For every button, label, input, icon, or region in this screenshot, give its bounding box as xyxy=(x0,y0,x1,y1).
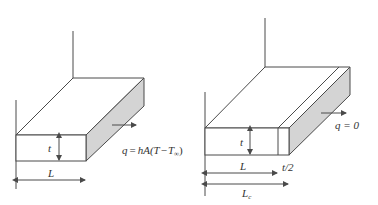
right-fin: t L t/2 Lc q = 0 xyxy=(205,18,359,201)
length-label: L xyxy=(47,167,54,179)
convection-equation: q=hA(T−T∞) xyxy=(122,144,183,158)
length-label: L xyxy=(239,160,246,172)
left-fin: t L q=hA(T−T∞) xyxy=(16,31,183,189)
adiabatic-tip-equation: q = 0 xyxy=(335,119,359,131)
fin-diagrams: t L q=hA(T−T∞) t L t/2 Lc q = 0 xyxy=(0,0,378,205)
front-face xyxy=(205,128,289,155)
extension-label: t/2 xyxy=(282,161,294,173)
corrected-length-label: Lc xyxy=(241,187,252,201)
